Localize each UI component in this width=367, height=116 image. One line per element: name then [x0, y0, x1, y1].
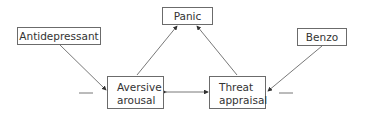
- edge-benzo-threat: [268, 46, 322, 91]
- node-benzo: Benzo: [297, 28, 347, 46]
- node-aversive-line1: Aversive: [117, 81, 163, 94]
- edge-threat-panic: [197, 26, 237, 75]
- node-threat-line2: appraisal: [219, 94, 265, 107]
- edge-antidepressant-aversive: [60, 45, 106, 90]
- node-aversive-arousal: Aversive arousal: [107, 76, 164, 109]
- node-antidepressant: Antidepressant: [17, 27, 101, 45]
- node-antidepressant-label: Antidepressant: [19, 30, 98, 43]
- node-panic: Panic: [162, 7, 213, 25]
- node-aversive-line2: arousal: [117, 94, 163, 107]
- node-panic-label: Panic: [174, 10, 202, 23]
- node-benzo-label: Benzo: [306, 31, 338, 44]
- node-threat-line1: Threat: [219, 81, 265, 94]
- node-threat-appraisal: Threat appraisal: [209, 76, 266, 109]
- edge-aversive-panic: [137, 26, 177, 75]
